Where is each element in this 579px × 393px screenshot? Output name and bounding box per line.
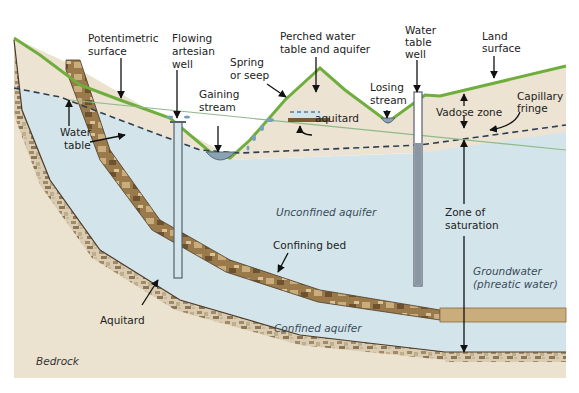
label-groundwater-1: Groundwater <box>473 265 542 277</box>
label-potentiometric-2: surface <box>88 45 127 57</box>
label-flowing-1: Flowing <box>172 32 212 44</box>
label-water-table-2: table <box>64 139 91 151</box>
label-perched-2: table and aquifer <box>280 43 371 55</box>
label-gaining-2: stream <box>199 101 236 113</box>
water-table-well <box>414 92 422 286</box>
label-flowing-3: well <box>172 58 193 70</box>
label-water-table-well-1: Water <box>405 24 437 36</box>
label-capillary-1: Capillary <box>517 90 563 102</box>
label-spring-1: Spring <box>230 56 264 68</box>
label-confining-bed: Confining bed <box>273 239 346 251</box>
label-perched-aquitard: aquitard <box>315 112 359 124</box>
label-land-1: Land <box>482 30 508 42</box>
label-groundwater-2: (phreatic water) <box>473 278 558 290</box>
label-water-table-well-2: table <box>405 36 432 48</box>
label-losing-1: Losing <box>370 81 404 93</box>
label-aquitard: Aquitard <box>100 314 145 326</box>
label-unconfined-aquifer: Unconfined aquifer <box>276 206 377 218</box>
label-capillary-2: fringe <box>517 102 548 114</box>
label-perched-1: Perched water <box>280 30 356 42</box>
label-gaining-1: Gaining <box>199 88 239 100</box>
label-zone-saturation-1: Zone of <box>445 206 485 218</box>
label-spring-2: or seep <box>230 69 269 81</box>
label-water-table-well-3: well <box>405 48 426 60</box>
label-flowing-2: artesian <box>172 45 215 57</box>
label-potentiometric-1: Potentimetric <box>88 32 159 44</box>
label-bedrock: Bedrock <box>36 355 80 367</box>
label-confined-aquifer: Confined aquifer <box>274 322 362 334</box>
label-land-2: surface <box>482 42 521 54</box>
label-vadose-zone: Vadose zone <box>436 106 502 118</box>
groundwater-diagram: Potentimetric surface Flowing artesian w… <box>0 0 579 393</box>
label-water-table-1: Water <box>60 126 92 138</box>
label-losing-2: stream <box>370 94 407 106</box>
label-zone-saturation-2: saturation <box>445 219 499 231</box>
